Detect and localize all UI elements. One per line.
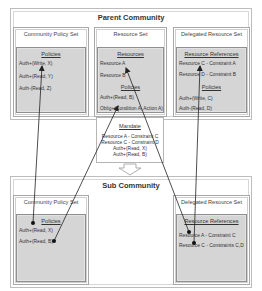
- connector-dot: [52, 239, 56, 243]
- connector-line: [33, 66, 42, 223]
- connector-dot: [31, 221, 35, 225]
- connector-overlay: [0, 0, 262, 291]
- connector-line: [54, 106, 118, 241]
- connector-line: [126, 68, 189, 232]
- connector-dot: [187, 230, 191, 234]
- inheritance-arrow-icon: [119, 164, 141, 175]
- connector-line: [194, 66, 200, 243]
- connector-dot: [192, 241, 196, 245]
